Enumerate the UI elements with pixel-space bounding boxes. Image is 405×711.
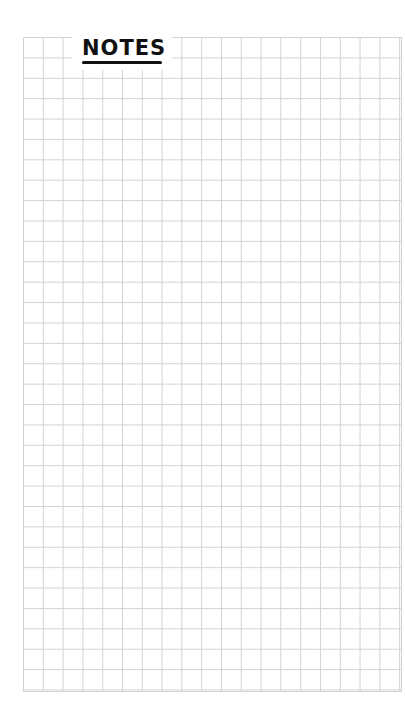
title-underline	[82, 61, 162, 64]
grid-paper	[23, 37, 402, 692]
page-title: NOTES	[82, 36, 166, 60]
